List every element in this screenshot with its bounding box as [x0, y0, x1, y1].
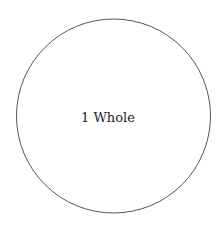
whole-label: 1 Whole: [81, 110, 135, 125]
fraction-diagram: 1 Whole: [0, 0, 219, 226]
